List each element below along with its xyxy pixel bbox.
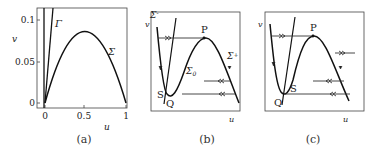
gamma-label: Γ (54, 18, 63, 29)
point-S: S (157, 89, 164, 100)
ylabel-v: v (12, 34, 17, 44)
caption-a: (a) (76, 133, 91, 146)
point-P: P (310, 22, 317, 33)
ytick-0.05: 0.05 (15, 57, 35, 67)
ytick-0.1: 0.1 (21, 15, 35, 25)
xlabel-u: u (343, 115, 348, 124)
panel-a-frame (37, 8, 127, 108)
point-Q: Q (166, 98, 174, 109)
ylabel-v: v (258, 20, 263, 29)
panel-c: v u P S Q (c) (258, 12, 364, 146)
sigma-zero-label: Σ0 (185, 66, 196, 77)
ylabel-v: v (145, 20, 150, 29)
gamma-line (164, 18, 176, 104)
caption-c: (c) (306, 133, 321, 146)
panel-b: v u Σ- Σ0 Σ+ P S Q (b) (145, 9, 240, 146)
xlabel-u: u (104, 122, 110, 132)
caption-b: (b) (199, 133, 215, 146)
sigma-plus-label: Σ+ (226, 51, 238, 61)
xtick-1: 1 (123, 111, 129, 121)
point-S: S (290, 83, 297, 94)
xlabel-u: u (229, 115, 234, 124)
xtick-0: 0 (42, 111, 48, 121)
sigma-curve (45, 32, 126, 104)
xtick-0.5: 0.5 (77, 111, 92, 121)
sigma-minus-label: Σ- (149, 9, 158, 20)
ytick-0: 0 (29, 98, 35, 108)
panel-b-frame (151, 12, 240, 111)
figure-canvas: 0.1 0.05 0 0 0.5 1 v u Γ Σ (a) v u (0, 0, 377, 153)
panel-a: 0.1 0.05 0 0 0.5 1 v u Γ Σ (a) (12, 8, 129, 146)
point-P: P (201, 24, 208, 35)
sigma-label: Σ (107, 46, 116, 57)
point-Q: Q (274, 97, 282, 108)
